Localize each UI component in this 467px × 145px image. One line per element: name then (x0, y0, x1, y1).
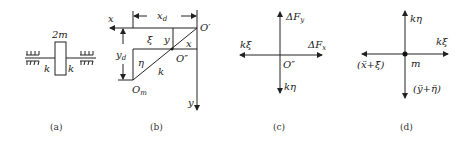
point-o-double-prime (171, 48, 174, 51)
k-xi-label: kξ (240, 39, 252, 50)
inertia-x-label: (ẍ+ξ̈) (357, 59, 384, 70)
diagram-canvas: 2m k k (a) x y xd yd O′ O″ ξ y (0, 0, 467, 145)
mass-block (55, 42, 66, 75)
spring-right-label: k (68, 63, 74, 74)
origin-prime-label: O′ (200, 22, 211, 33)
caption-b: (b) (150, 122, 163, 132)
mass-label: 2m (51, 29, 68, 40)
k-eta-label: kη (284, 81, 296, 92)
mass-label: m (411, 58, 420, 69)
k-label: k (158, 66, 164, 77)
spring-left-label: k (44, 63, 50, 74)
panel-c: ΔFy ΔFx kξ kη O″ (c) (240, 11, 326, 132)
origin-m-label: Om (132, 84, 147, 97)
k-xi-label: kξ (436, 36, 448, 47)
force-x-label: ΔFx (307, 39, 326, 52)
x-axis-label: x (108, 13, 114, 24)
x-label: x (186, 38, 192, 49)
eta-label: η (138, 57, 144, 68)
xd-label: xd (157, 10, 168, 23)
yd-label: yd (115, 49, 127, 62)
panel-a: 2m k k (a) (25, 29, 96, 132)
inertia-y-label: (ÿ+η̈) (413, 83, 441, 94)
origin-label: O″ (283, 59, 295, 70)
y-label: y (163, 34, 170, 45)
force-y-label: ΔFy (285, 11, 305, 24)
panel-b: x y xd yd O′ O″ ξ y x η k Om (b) (108, 10, 211, 132)
y-axis-label: y (187, 97, 194, 108)
caption-a: (a) (50, 122, 62, 132)
panel-d: kη kξ m (ẍ+ξ̈) (ÿ+η̈) (d) (357, 11, 448, 132)
xi-label: ξ (147, 34, 153, 45)
caption-c: (c) (273, 122, 285, 132)
mass-point (403, 52, 408, 57)
k-eta-label: kη (410, 13, 422, 24)
origin-double-prime-label: O″ (176, 53, 188, 64)
caption-d: (d) (400, 122, 413, 132)
